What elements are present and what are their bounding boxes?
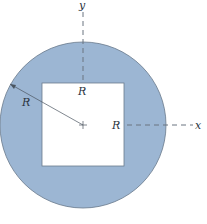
- top-side-label: R: [77, 85, 86, 98]
- diagram-canvas: y x R R R: [0, 0, 207, 224]
- radius-label: R: [21, 96, 30, 109]
- x-axis-label: x: [195, 119, 202, 132]
- right-side-label: R: [111, 119, 120, 132]
- y-axis-label: y: [78, 0, 86, 12]
